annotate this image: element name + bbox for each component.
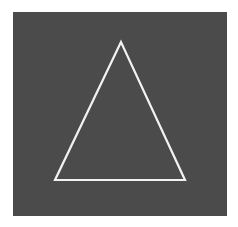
- triangle-graphic: [0, 0, 238, 227]
- triangle-outline: [55, 42, 185, 180]
